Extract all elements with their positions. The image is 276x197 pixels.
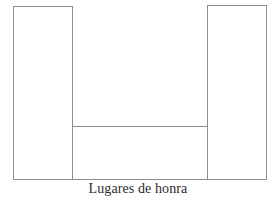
x-axis-label: Lugares de honra — [0, 180, 276, 197]
bar-right — [207, 5, 267, 180]
bar-middle — [72, 126, 208, 180]
bar-chart-plot-area: Lugares de honra — [0, 0, 276, 197]
bar-left — [13, 6, 73, 180]
chart-screenshot: Lugares de honra — [0, 0, 276, 197]
